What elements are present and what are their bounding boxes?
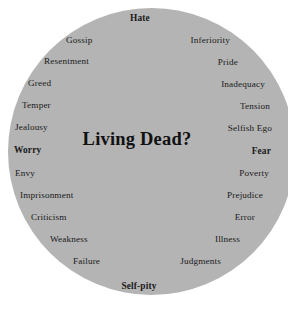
word-illness: Illness bbox=[215, 234, 240, 245]
word-inferiority: Inferiority bbox=[191, 35, 230, 46]
word-tension: Tension bbox=[240, 101, 270, 112]
word-pride: Pride bbox=[218, 57, 238, 68]
word-error: Error bbox=[235, 212, 255, 223]
word-greed: Greed bbox=[28, 78, 51, 89]
word-gossip: Gossip bbox=[66, 35, 92, 46]
word-self-pity: Self-pity bbox=[121, 281, 156, 292]
word-worry: Worry bbox=[14, 145, 41, 156]
word-selfish-ego: Selfish Ego bbox=[228, 123, 272, 134]
center-title-living-dead: Living Dead? bbox=[83, 129, 192, 150]
word-envy: Envy bbox=[15, 168, 35, 179]
diagram-circle-shape bbox=[8, 8, 288, 295]
word-resentment: Resentment bbox=[44, 56, 89, 67]
word-circle-diagram: Hate Gossip Resentment Greed Temper Jeal… bbox=[0, 0, 288, 313]
word-inadequacy: Inadequacy bbox=[221, 79, 265, 90]
word-temper: Temper bbox=[22, 100, 51, 111]
word-prejudice: Prejudice bbox=[227, 190, 263, 201]
word-fear: Fear bbox=[252, 146, 271, 157]
word-imprisonment: Imprisonment bbox=[20, 190, 73, 201]
word-poverty: Poverty bbox=[239, 168, 269, 179]
word-failure: Failure bbox=[73, 256, 100, 267]
word-weakness: Weakness bbox=[50, 234, 88, 245]
word-judgments: Judgments bbox=[180, 256, 221, 267]
word-jealousy: Jealousy bbox=[15, 122, 48, 133]
word-criticism: Criticism bbox=[31, 212, 67, 223]
word-hate: Hate bbox=[130, 13, 150, 24]
